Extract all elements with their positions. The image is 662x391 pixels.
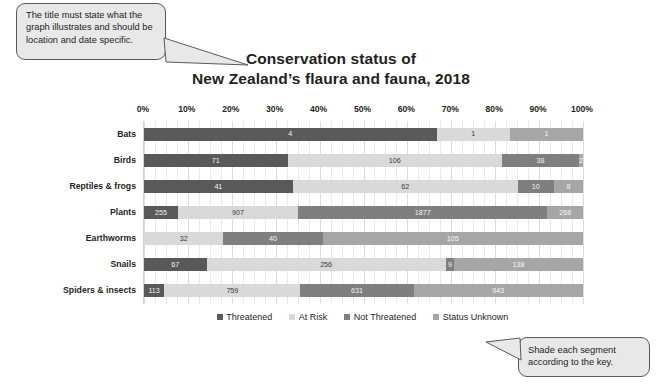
bar-row: 4101 bbox=[144, 128, 583, 141]
bar-segment-value: 138 bbox=[513, 261, 525, 268]
y-axis-label-plants: Plants bbox=[110, 206, 136, 219]
bar-segment: 2 bbox=[579, 154, 583, 167]
bar-segment-value: 113 bbox=[148, 287, 159, 294]
bar-segment-value: 255 bbox=[155, 209, 167, 216]
bar-segment-value: 4 bbox=[288, 130, 292, 137]
bar-segment: 41 bbox=[144, 180, 293, 193]
bar-segment: 10 bbox=[518, 180, 554, 193]
x-tick-label: 10% bbox=[178, 104, 195, 114]
legend-item[interactable]: Not Threatened bbox=[344, 312, 416, 322]
bar-row: 113759631943 bbox=[144, 284, 583, 297]
bar-row: 672569138 bbox=[144, 258, 583, 271]
x-tick-label: 0% bbox=[137, 104, 149, 114]
bar-segment-value: 62 bbox=[401, 183, 409, 190]
bar-segment-value: 71 bbox=[212, 157, 220, 164]
bar-segment-value: 40 bbox=[269, 235, 277, 242]
bar-segment: 71 bbox=[144, 154, 288, 167]
x-tick-label: 70% bbox=[442, 104, 459, 114]
bar-segment: 4 bbox=[144, 128, 437, 141]
bar-segment: 113 bbox=[144, 284, 164, 297]
legend-label: Status Unknown bbox=[443, 312, 509, 322]
bar-segment-value: 1877 bbox=[415, 209, 431, 216]
bar-row: 4162108 bbox=[144, 180, 583, 193]
bar-segment-value: 1 bbox=[471, 130, 475, 137]
bar-segment: 943 bbox=[414, 284, 583, 297]
bar-segment: 268 bbox=[547, 206, 583, 219]
bar-segment-value: 105 bbox=[447, 235, 459, 242]
bar-segment-value: 631 bbox=[351, 287, 363, 294]
chart: 0%10%20%30%40%50%60%70%80%90%100% BatsBi… bbox=[0, 100, 662, 330]
bar-segment: 256 bbox=[207, 258, 446, 271]
x-tick-label: 80% bbox=[486, 104, 503, 114]
legend-item[interactable]: Status Unknown bbox=[433, 312, 508, 322]
bar-segment: 138 bbox=[454, 258, 583, 271]
chart-title-line2: New Zealand’s flaura and fauna, 2018 bbox=[0, 69, 662, 89]
gridline bbox=[583, 121, 584, 304]
bar-segment: 106 bbox=[288, 154, 502, 167]
x-tick-label: 90% bbox=[529, 104, 546, 114]
callout-title-note-text: The title must state what the graph illu… bbox=[26, 10, 153, 45]
y-axis-label-bats: Bats bbox=[117, 128, 136, 141]
bar-segment: 759 bbox=[164, 284, 300, 297]
bar-segment: 32 bbox=[144, 232, 223, 245]
bar-segment: 1 bbox=[437, 128, 510, 141]
bar-segment-value: 759 bbox=[226, 287, 238, 294]
bar-segment-value: 38 bbox=[537, 157, 545, 164]
bar-row: 03240105 bbox=[144, 232, 583, 245]
chart-legend: ThreatenedAt RiskNot ThreatenedStatus Un… bbox=[143, 312, 582, 322]
bar-segment: 1877 bbox=[298, 206, 547, 219]
bar-segment: 8 bbox=[554, 180, 583, 193]
legend-label: At Risk bbox=[299, 312, 328, 322]
bar-segment: 40 bbox=[223, 232, 322, 245]
bar-segment: 105 bbox=[323, 232, 583, 245]
y-axis-label-reptiles-frogs: Reptiles & frogs bbox=[69, 180, 136, 193]
x-tick-label: 20% bbox=[222, 104, 239, 114]
bar-segment-value: 2 bbox=[579, 157, 583, 164]
legend-item[interactable]: At Risk bbox=[289, 312, 327, 322]
bar-segment-value: 10 bbox=[532, 183, 540, 190]
bar-segment: 255 bbox=[144, 206, 178, 219]
x-tick-label: 50% bbox=[354, 104, 371, 114]
y-axis: BatsBirdsReptiles & frogsPlantsEarthworm… bbox=[0, 121, 143, 304]
chart-title-line1: Conservation status of bbox=[246, 50, 416, 67]
bar-segment-value: 106 bbox=[389, 157, 401, 164]
legend-swatch-icon bbox=[217, 314, 223, 320]
bar-segment-value: 1 bbox=[544, 130, 548, 137]
x-tick-label: 40% bbox=[310, 104, 327, 114]
bar-segment: 62 bbox=[293, 180, 518, 193]
bar-segment-value: 67 bbox=[171, 261, 179, 268]
bar-segment: 631 bbox=[300, 284, 413, 297]
bar-segment: 67 bbox=[144, 258, 207, 271]
bar-segment-value: 256 bbox=[320, 261, 332, 268]
page-title: Conservation status of New Zealand’s fla… bbox=[0, 49, 662, 89]
legend-swatch-icon bbox=[433, 314, 439, 320]
bar-segment-value: 32 bbox=[180, 235, 188, 242]
bar-segment-value: 268 bbox=[559, 209, 571, 216]
bar-segment-value: 907 bbox=[232, 209, 244, 216]
y-axis-label-earthworms: Earthworms bbox=[86, 232, 136, 245]
legend-swatch-icon bbox=[344, 314, 350, 320]
y-axis-label-snails: Snails bbox=[110, 258, 136, 271]
bar-segment: 9 bbox=[446, 258, 454, 271]
legend-label: Not Threatened bbox=[354, 312, 416, 322]
x-tick-label: 30% bbox=[266, 104, 283, 114]
y-axis-label-birds: Birds bbox=[114, 154, 136, 167]
bar-segment-value: 8 bbox=[566, 183, 570, 190]
x-axis: 0%10%20%30%40%50%60%70%80%90%100% bbox=[143, 104, 582, 118]
bar-segment: 1 bbox=[510, 128, 583, 141]
bar-segment: 907 bbox=[178, 206, 298, 219]
x-tick-label: 60% bbox=[398, 104, 415, 114]
bar-segment: 38 bbox=[502, 154, 579, 167]
callout-key-note-text: Shade each segment according to the key. bbox=[528, 345, 616, 367]
y-axis-label-spiders-insects: Spiders & insects bbox=[63, 284, 136, 297]
legend-label: Threatened bbox=[226, 312, 272, 322]
bar-segment-value: 943 bbox=[492, 287, 504, 294]
bar-row: 2559071877268 bbox=[144, 206, 583, 219]
callout-key-note: Shade each segment according to the key. bbox=[518, 337, 650, 377]
x-tick-label: 100% bbox=[571, 104, 593, 114]
plot-area: 4101711063824162108255907187726803240105… bbox=[143, 121, 583, 304]
legend-item[interactable]: Threatened bbox=[217, 312, 273, 322]
bar-segment-value: 41 bbox=[214, 183, 222, 190]
bar-segment-value: 9 bbox=[448, 261, 452, 268]
legend-swatch-icon bbox=[289, 314, 295, 320]
